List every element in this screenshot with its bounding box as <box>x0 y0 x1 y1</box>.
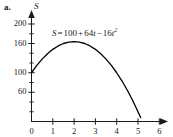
y-tick-label: 200 <box>14 19 27 28</box>
x-tick-label: 6 <box>151 127 167 136</box>
x-tick-label: 0 <box>24 127 40 136</box>
y-tick-label: 160 <box>14 39 27 48</box>
x-tick-label: 2 <box>66 127 82 136</box>
parabola-curve <box>32 42 141 118</box>
y-axis-group <box>28 10 34 122</box>
figure-container: a. S S=100+64t−16t2 60100160200 0123456 <box>0 0 173 137</box>
y-tick-label: 60 <box>18 87 27 96</box>
x-axis-arrowhead-icon <box>160 118 168 124</box>
y-axis-arrowhead-icon <box>28 10 34 18</box>
x-axis-group <box>32 118 169 124</box>
y-tick-label: 100 <box>14 68 27 77</box>
x-tick-label: 4 <box>109 127 125 136</box>
x-tick-label: 5 <box>130 127 146 136</box>
x-tick-label: 1 <box>45 127 61 136</box>
x-tick-label: 3 <box>87 127 103 136</box>
